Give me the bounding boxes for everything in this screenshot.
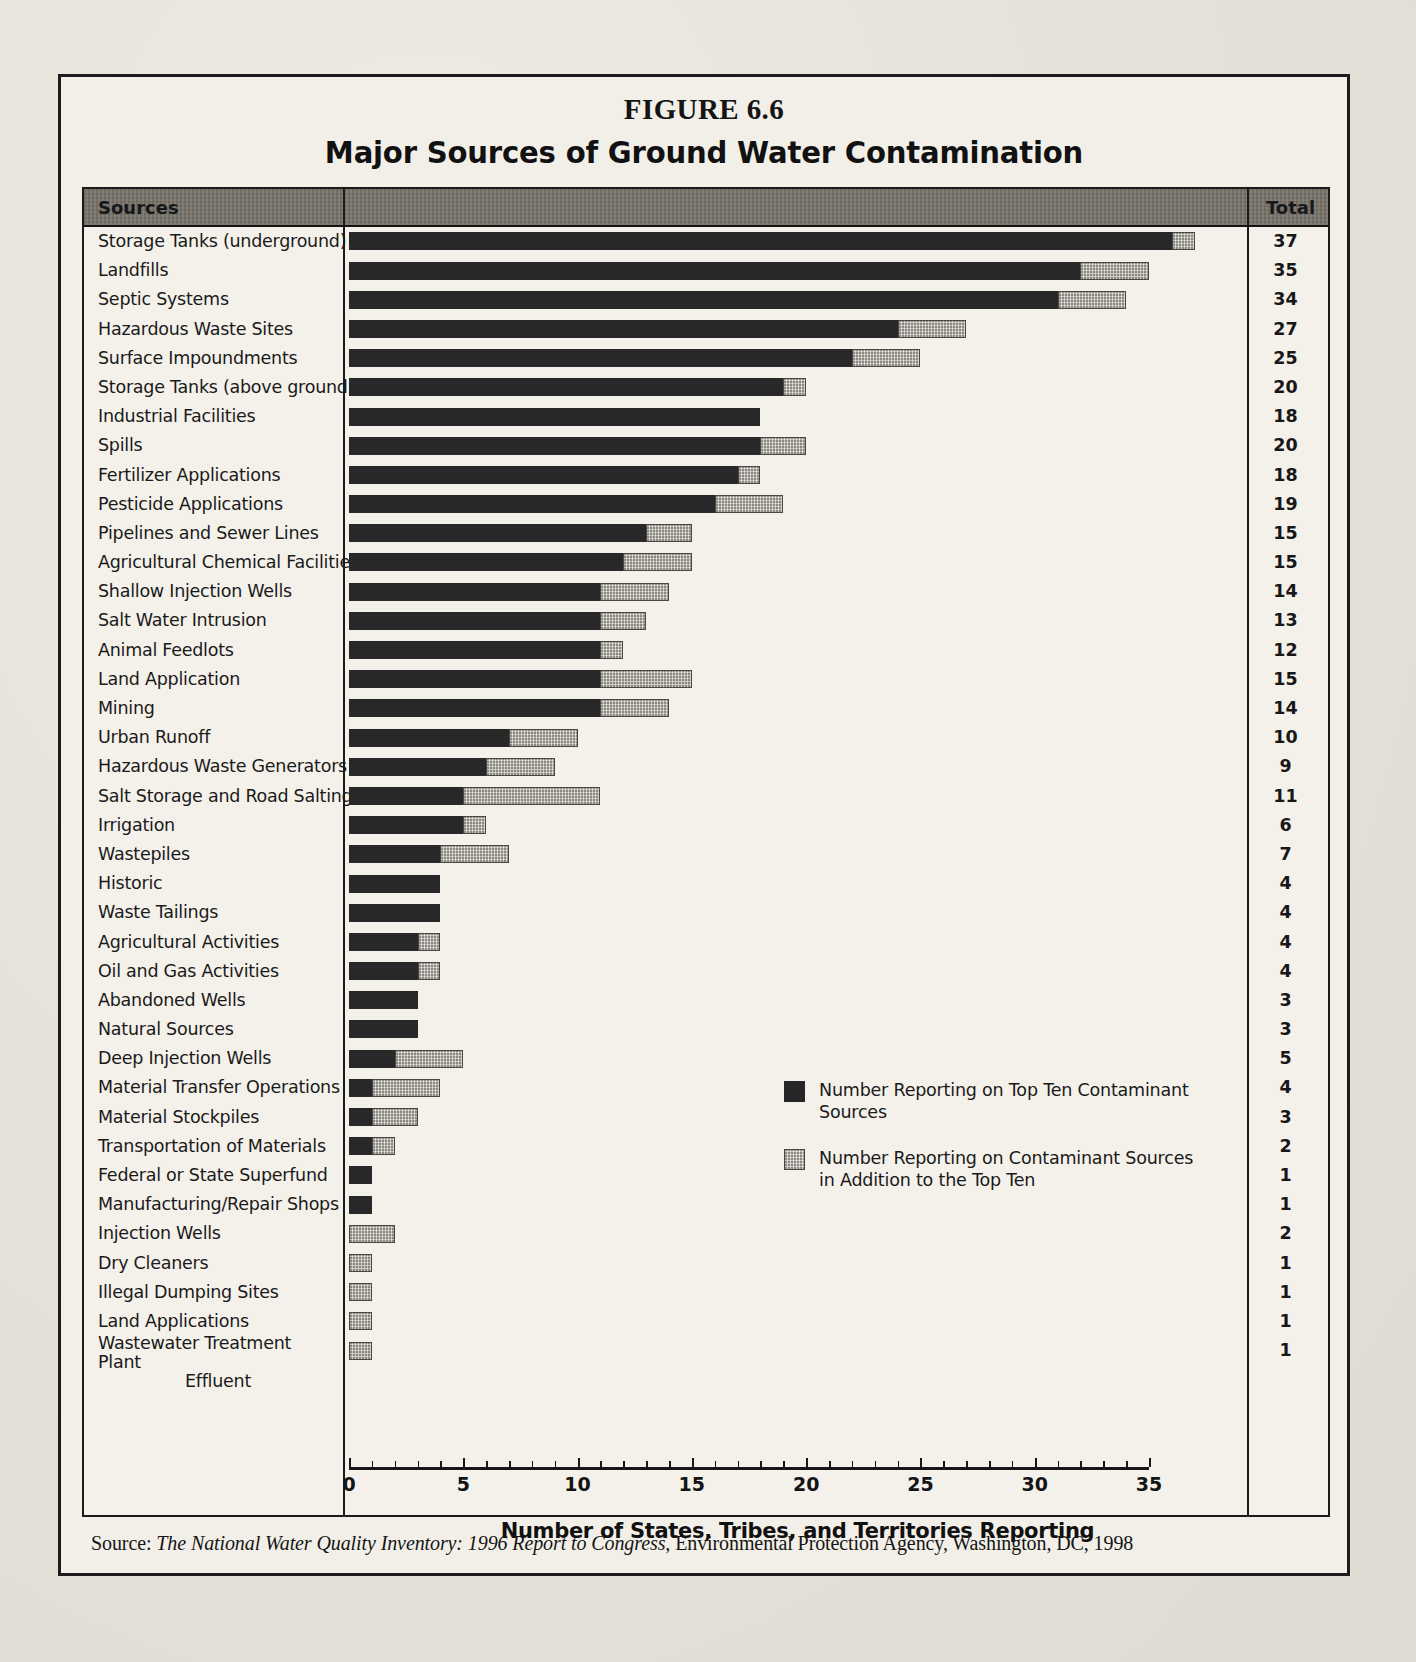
bar-segment-additional <box>600 670 691 688</box>
bar-segment-top-ten <box>349 670 600 688</box>
table-row: Illegal Dumping Sites1 <box>84 1278 1328 1307</box>
row-label: Hazardous Waste Sites <box>98 319 338 339</box>
figure-title: Major Sources of Ground Water Contaminat… <box>80 135 1327 170</box>
bar-track <box>345 1219 1243 1248</box>
row-total: 4 <box>1243 1077 1328 1097</box>
bar-segment-additional <box>783 378 806 396</box>
axis-tick-minor <box>852 1461 854 1467</box>
bar-track <box>345 840 1243 869</box>
axis-tick-minor <box>1126 1461 1128 1467</box>
axis-tick-minor <box>715 1461 717 1467</box>
bar-track <box>345 1249 1243 1278</box>
row-label: Illegal Dumping Sites <box>98 1282 338 1302</box>
axis-tick-label: 10 <box>564 1473 590 1495</box>
row-label: Land Application <box>98 669 338 689</box>
axis-tick-major <box>920 1458 922 1467</box>
row-total: 4 <box>1243 873 1328 893</box>
bar-segment-additional <box>898 320 967 338</box>
table-row: Storage Tanks (above ground)20 <box>84 373 1328 402</box>
bar-segment-additional <box>600 583 669 601</box>
row-total: 35 <box>1243 260 1328 280</box>
bar-track <box>345 315 1243 344</box>
row-total: 1 <box>1243 1340 1328 1360</box>
row-total: 2 <box>1243 1223 1328 1243</box>
table-row: Salt Storage and Road Salting11 <box>84 782 1328 811</box>
table-row: Fertilizer Applications18 <box>84 461 1328 490</box>
row-label: Wastewater Treatment PlantEffluent <box>98 1334 338 1391</box>
table-row: Pipelines and Sewer Lines15 <box>84 519 1328 548</box>
stacked-bar <box>349 1020 418 1038</box>
table-row: Irrigation6 <box>84 811 1328 840</box>
row-total: 20 <box>1243 435 1328 455</box>
row-label: Salt Storage and Road Salting <box>98 786 338 806</box>
row-label: Oil and Gas Activities <box>98 961 338 981</box>
row-label: Abandoned Wells <box>98 990 338 1010</box>
row-label: Hazardous Waste Generators <box>98 756 338 776</box>
bar-segment-additional <box>418 933 441 951</box>
legend-label: Number Reporting on Contaminant Sources … <box>819 1147 1214 1191</box>
table-row: Mining14 <box>84 694 1328 723</box>
bar-segment-additional <box>349 1254 372 1272</box>
stacked-bar <box>349 495 783 513</box>
bar-segment-top-ten <box>349 729 509 747</box>
bar-segment-additional <box>600 612 646 630</box>
table-row: Natural Sources3 <box>84 1015 1328 1044</box>
stacked-bar <box>349 816 486 834</box>
row-label: Agricultural Activities <box>98 932 338 952</box>
column-header-total: Total <box>1249 197 1332 218</box>
bar-segment-top-ten <box>349 933 418 951</box>
figure-frame: FIGURE 6.6 Major Sources of Ground Water… <box>58 74 1350 1576</box>
row-label: Urban Runoff <box>98 727 338 747</box>
table-row: Salt Water Intrusion13 <box>84 606 1328 635</box>
row-label: Storage Tanks (above ground) <box>98 377 338 397</box>
row-total: 5 <box>1243 1048 1328 1068</box>
stacked-bar <box>349 1137 395 1155</box>
row-total: 3 <box>1243 1107 1328 1127</box>
source-note: Source: The National Water Quality Inven… <box>91 1532 1321 1555</box>
bar-track <box>345 285 1243 314</box>
chart-table: Sources Total Storage Tanks (underground… <box>82 187 1330 1517</box>
axis-tick-minor <box>1103 1461 1105 1467</box>
bar-segment-additional <box>372 1108 418 1126</box>
bar-segment-additional <box>463 816 486 834</box>
bar-segment-top-ten <box>349 904 440 922</box>
table-row: Agricultural Chemical Facilities15 <box>84 548 1328 577</box>
table-row: Spills20 <box>84 431 1328 460</box>
axis-tick-label: 35 <box>1136 1473 1162 1495</box>
row-label: Dry Cleaners <box>98 1253 338 1273</box>
row-label: Landfills <box>98 260 338 280</box>
bar-segment-top-ten <box>349 583 600 601</box>
row-total: 10 <box>1243 727 1328 747</box>
table-row: Surface Impoundments25 <box>84 344 1328 373</box>
axis-tick-minor <box>760 1461 762 1467</box>
row-total: 9 <box>1243 756 1328 776</box>
bar-segment-additional <box>486 758 555 776</box>
bar-track <box>345 957 1243 986</box>
table-row: Abandoned Wells3 <box>84 986 1328 1015</box>
axis-tick-minor <box>418 1461 420 1467</box>
table-row: Urban Runoff10 <box>84 723 1328 752</box>
stacked-bar <box>349 699 669 717</box>
row-label: Fertilizer Applications <box>98 465 338 485</box>
row-total: 15 <box>1243 523 1328 543</box>
bar-segment-top-ten <box>349 1079 372 1097</box>
row-total: 1 <box>1243 1311 1328 1331</box>
bar-segment-top-ten <box>349 437 760 455</box>
table-row: Hazardous Waste Generators9 <box>84 752 1328 781</box>
axis-tick-label: 20 <box>793 1473 819 1495</box>
bar-track <box>345 636 1243 665</box>
stacked-bar <box>349 962 440 980</box>
bar-segment-top-ten <box>349 787 463 805</box>
row-total: 14 <box>1243 698 1328 718</box>
table-row: Waste Tailings4 <box>84 898 1328 927</box>
bar-segment-additional <box>646 524 692 542</box>
axis-tick-major <box>806 1458 808 1467</box>
x-axis-line <box>349 1467 1149 1470</box>
row-total: 37 <box>1243 231 1328 251</box>
axis-tick-minor <box>1012 1461 1014 1467</box>
bar-segment-top-ten <box>349 232 1172 250</box>
row-label: Pipelines and Sewer Lines <box>98 523 338 543</box>
bar-segment-top-ten <box>349 408 760 426</box>
axis-tick-major <box>1035 1458 1037 1467</box>
row-label: Industrial Facilities <box>98 406 338 426</box>
